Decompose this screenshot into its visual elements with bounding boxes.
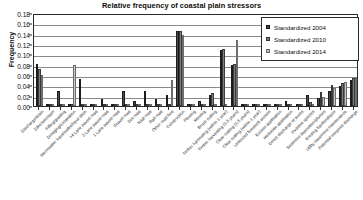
bar-group: [88, 15, 99, 106]
chart-legend: Standardized 2004Standardized 2010Standa…: [261, 17, 359, 61]
bar: [84, 104, 87, 106]
bar-group: [175, 15, 186, 106]
bar: [52, 104, 55, 106]
bar: [236, 40, 239, 106]
bar-group: [218, 15, 229, 106]
bar: [222, 49, 225, 106]
bar: [344, 82, 347, 106]
chart-title: Relative frequency of coastal plain stre…: [0, 1, 363, 10]
bar: [106, 104, 109, 106]
bar: [333, 88, 336, 106]
y-axis-tick-mark: [29, 24, 32, 25]
bar-group: [132, 15, 143, 106]
bar: [95, 104, 98, 106]
bar: [214, 104, 217, 106]
bar-group: [99, 15, 110, 106]
y-axis-tick-mark: [29, 107, 32, 108]
y-axis-tick-mark: [29, 65, 32, 66]
bar: [192, 104, 195, 106]
bar: [257, 104, 260, 106]
bar: [149, 104, 152, 106]
y-axis-ticks: 0.180.160.140.120.100.080.060.040.020.00: [0, 10, 32, 111]
bar: [73, 65, 76, 106]
bar-group: [207, 15, 218, 106]
y-axis-tick-mark: [29, 34, 32, 35]
bar: [127, 104, 130, 106]
bar: [160, 104, 163, 106]
bar-group: [34, 15, 45, 106]
bar: [182, 35, 185, 106]
bar-group: [142, 15, 153, 106]
bar: [247, 104, 250, 106]
bar: [79, 79, 82, 106]
bar-group: [77, 15, 88, 106]
bar: [225, 104, 228, 106]
y-axis-tick-mark: [29, 76, 32, 77]
legend-item[interactable]: Standardized 2014: [266, 45, 355, 57]
bar: [138, 104, 141, 106]
legend-item[interactable]: Standardized 2010: [266, 33, 355, 45]
y-axis-tick-mark: [29, 14, 32, 15]
bar: [322, 97, 325, 106]
bar-group: [251, 15, 262, 106]
legend-swatch-icon: [266, 37, 270, 41]
legend-label: Standardized 2014: [274, 48, 326, 55]
x-axis-labels: Discharge/drainDike/weir/damFilling/grad…: [33, 109, 358, 200]
bar: [62, 104, 65, 106]
bar-group: [56, 15, 67, 106]
bar-group: [153, 15, 164, 106]
bar-group: [197, 15, 208, 106]
bar: [117, 104, 120, 106]
y-axis-tick-mark: [29, 45, 32, 46]
bar: [171, 80, 174, 106]
bar-group: [67, 15, 78, 106]
bar-group: [121, 15, 132, 106]
y-axis-tick-mark: [29, 86, 32, 87]
legend-swatch-icon: [266, 49, 270, 53]
bar: [279, 104, 282, 106]
bar: [41, 75, 44, 106]
legend-swatch-icon: [266, 25, 270, 29]
chart-container: Relative frequency of coastal plain stre…: [0, 0, 363, 200]
bar: [290, 104, 293, 106]
bar-group: [110, 15, 121, 106]
bar-group: [229, 15, 240, 106]
y-axis-tick-mark: [29, 96, 32, 97]
legend-label: Standardized 2004: [274, 24, 326, 31]
legend-label: Standardized 2010: [274, 36, 326, 43]
bar-group: [45, 15, 56, 106]
bar-group: [186, 15, 197, 106]
y-axis-tick-mark: [29, 55, 32, 56]
legend-item[interactable]: Standardized 2004: [266, 21, 355, 33]
bar: [301, 104, 304, 106]
bar: [312, 104, 315, 106]
bar: [203, 104, 206, 106]
bar-group: [164, 15, 175, 106]
bar-group: [240, 15, 251, 106]
bar: [355, 77, 358, 106]
bar: [268, 104, 271, 106]
